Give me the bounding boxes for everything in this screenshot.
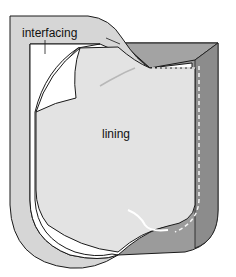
lining-label: lining [102, 127, 130, 141]
interfacing-label: interfacing [22, 26, 77, 40]
